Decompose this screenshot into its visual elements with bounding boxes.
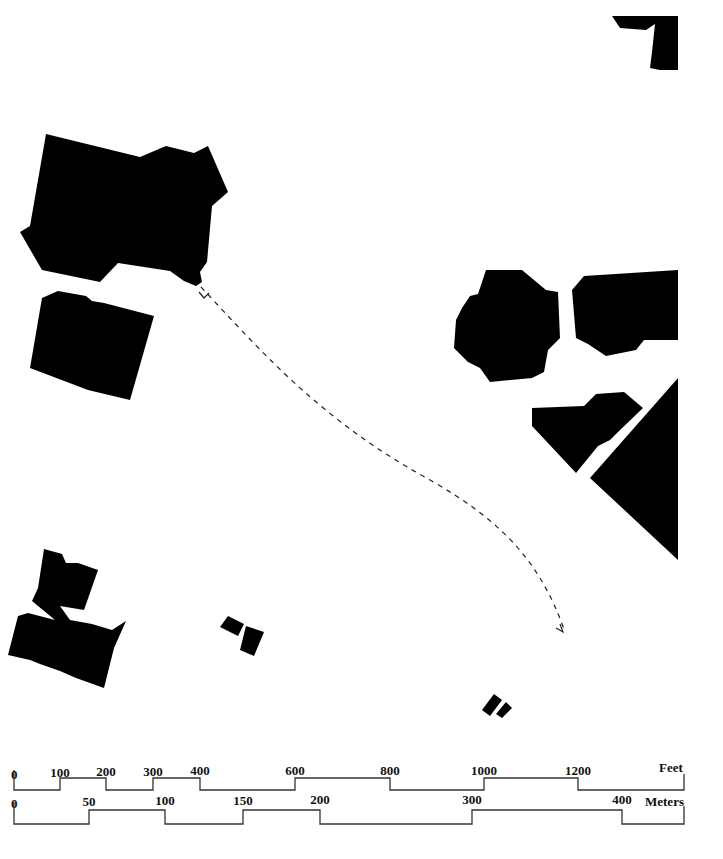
scale-tick-label: 1200 — [565, 764, 591, 777]
scale-tick-label: 1000 — [471, 764, 497, 777]
scale-tick-label: 200 — [310, 793, 330, 806]
site-plan-map — [0, 0, 723, 859]
scale-tick-label: 400 — [612, 793, 632, 806]
scale-tick-label: 800 — [380, 764, 400, 777]
building-east-block — [572, 270, 678, 356]
scale-tick-label: 0 — [11, 768, 18, 781]
building-octagon-building — [454, 270, 560, 382]
scale-tick-label: 300 — [143, 765, 163, 778]
scale-tick-label: 200 — [96, 765, 116, 778]
scale-tick-label: 400 — [190, 764, 210, 777]
scale-tick-label: 100 — [50, 766, 70, 779]
building-top-right-corner — [612, 16, 678, 70]
scale-tick-label: 0 — [11, 797, 18, 810]
meters-scale-line — [14, 802, 684, 824]
meters-unit-label: Meters — [645, 795, 684, 808]
meters-scale-bar — [14, 802, 684, 824]
scale-tick-label: 100 — [155, 794, 175, 807]
building-small-shed-b — [240, 626, 264, 656]
route-start-arrow-icon — [199, 292, 209, 298]
building-small-shed-a — [220, 616, 244, 636]
building-southwest-complex — [8, 549, 126, 688]
scale-tick-label: 150 — [233, 794, 253, 807]
feet-unit-label: Feet — [659, 761, 683, 774]
building-west-block — [30, 291, 154, 400]
scale-tick-label: 300 — [462, 793, 482, 806]
scale-tick-label: 600 — [285, 764, 305, 777]
building-large-northwest-complex — [20, 134, 228, 286]
buildings-layer — [8, 16, 678, 718]
scale-tick-label: 50 — [83, 795, 96, 808]
